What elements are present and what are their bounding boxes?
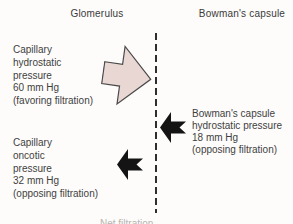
label-line: oncotic <box>13 150 98 163</box>
label-line: (opposing filtration) <box>13 188 98 201</box>
label-line: pressure <box>13 163 98 176</box>
label-line: 32 mm Hg <box>13 175 98 188</box>
label-line: hydrostatic pressure <box>192 120 282 132</box>
oncotic-opposing-arrow-icon <box>117 149 143 180</box>
bowmans-capsule-header: Bowman's capsule <box>193 8 291 19</box>
label-line: Bowman's capsule <box>192 108 282 120</box>
capillary-oncotic-pressure-label: Capillary oncotic pressure 32 mm Hg (opp… <box>13 137 98 201</box>
capillary-hydrostatic-pressure-label: Capillary hydrostatic pressure 60 mm Hg … <box>13 44 93 108</box>
favoring-filtration-arrow-icon <box>98 41 156 111</box>
membrane-dashed-divider <box>155 33 157 213</box>
net-filtration-cutoff-label: Net filtration <box>100 218 153 224</box>
label-line: (favoring filtration) <box>13 95 93 108</box>
label-line: 60 mm Hg <box>13 82 93 95</box>
glomerulus-header: Glomerulus <box>62 8 132 19</box>
label-line: (opposing filtration) <box>192 144 282 156</box>
label-line: hydrostatic <box>13 57 93 70</box>
label-line: Capillary <box>13 44 93 57</box>
bowmans-opposing-arrow-icon <box>160 112 186 143</box>
label-line: 18 mm Hg <box>192 132 282 144</box>
label-line: Capillary <box>13 137 98 150</box>
label-line: pressure <box>13 70 93 83</box>
bowmans-hydrostatic-pressure-label: Bowman's capsule hydrostatic pressure 18… <box>192 108 282 156</box>
